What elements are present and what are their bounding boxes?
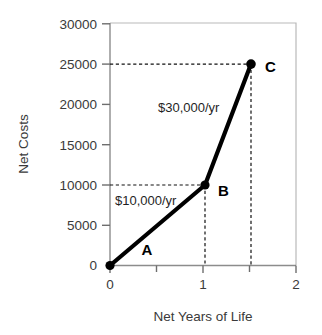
point-label-a: A [142,241,153,258]
x-axis-ticks [110,266,296,274]
y-axis-title: Net Costs [16,114,31,174]
x-tick-label-2: 2 [292,277,300,292]
axis-titles: Net Costs Net Years of Life [16,114,253,324]
slope-label-ab: $10,000/yr [115,193,177,208]
y-tick-label-20000: 20000 [59,97,97,112]
y-axis-ticks [102,24,110,226]
x-tick-label-0: 0 [106,277,114,292]
slope-annotations: $10,000/yr $30,000/yr [115,100,220,208]
cost-effectiveness-plane-chart: 30000 25000 20000 15000 10000 5000 0 0 1… [0,0,322,335]
data-point-b [200,180,209,189]
y-tick-label-0: 0 [89,258,97,273]
data-point-c [246,59,256,69]
data-point-origin [105,261,114,270]
series-polyline [110,64,251,265]
x-tick-label-1: 1 [199,277,207,292]
y-tick-label-5000: 5000 [67,218,97,233]
point-label-c: C [265,58,276,75]
y-tick-label-30000: 30000 [59,17,97,32]
y-tick-label-25000: 25000 [59,57,97,72]
x-axis-tick-labels: 0 1 2 [106,277,300,292]
y-tick-label-10000: 10000 [59,178,97,193]
reference-lines [110,64,251,265]
y-tick-label-15000: 15000 [59,138,97,153]
point-labels: A B C [142,58,276,258]
x-axis-title: Net Years of Life [153,309,252,324]
chart-container: 30000 25000 20000 15000 10000 5000 0 0 1… [0,0,322,335]
y-axis-tick-labels: 30000 25000 20000 15000 10000 5000 0 [59,17,97,274]
point-label-b: B [218,182,229,199]
slope-label-bc: $30,000/yr [158,100,220,115]
data-series [105,59,255,270]
